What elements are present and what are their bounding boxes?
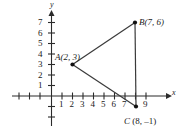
vertex-dot-b xyxy=(133,20,137,24)
point-label-c-coords: (8, –1) xyxy=(132,116,156,126)
y-tick-label-6: 6 xyxy=(38,29,43,38)
x-tick-label-7: 7 xyxy=(122,100,127,109)
triangle-edge-ab xyxy=(73,23,136,65)
vertex-dot-a xyxy=(70,62,74,66)
point-label-a: A(2, 3) xyxy=(55,53,80,62)
x-tick-label-9: 9 xyxy=(143,100,148,109)
point-label-c: C (8, –1) xyxy=(124,117,156,126)
y-tick-label-7: 7 xyxy=(38,18,43,27)
y-axis-label: y xyxy=(50,1,54,9)
point-label-b: B(7, 6) xyxy=(139,18,164,27)
y-tick-label-1: 1 xyxy=(38,81,43,90)
y-tick-label-2: 2 xyxy=(38,71,43,80)
y-tick-label-3: 3 xyxy=(38,60,43,69)
y-tick-label-4: 4 xyxy=(38,50,43,59)
x-axis-label: x xyxy=(172,89,176,97)
x-tick-label-3: 3 xyxy=(80,100,85,109)
point-label-c-name: C xyxy=(124,116,130,126)
vertex-dot-c xyxy=(134,104,138,108)
y-tick-label-5: 5 xyxy=(38,39,43,48)
x-tick-label-5: 5 xyxy=(101,100,106,109)
coordinate-plane-figure: y x 7 6 5 4 3 2 1 1 2 3 4 5 6 7 9 A(2, 3… xyxy=(0,0,183,131)
x-tick-label-6: 6 xyxy=(112,100,117,109)
x-tick-label-2: 2 xyxy=(70,100,75,109)
y-axis-arrow-icon xyxy=(49,10,55,16)
x-tick-label-1: 1 xyxy=(59,100,64,109)
x-tick-label-4: 4 xyxy=(91,100,96,109)
